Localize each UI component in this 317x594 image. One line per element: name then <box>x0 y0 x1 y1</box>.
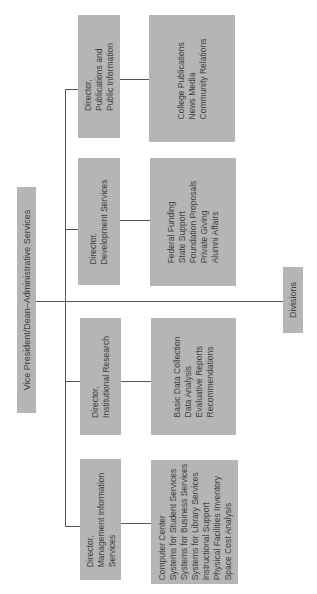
function-item: News Media <box>187 38 198 119</box>
branch-development <box>65 229 78 230</box>
link-research-functions <box>121 381 151 382</box>
director-box-development: Director, Development Services <box>78 158 120 285</box>
director-title-line: Management Information <box>95 472 106 567</box>
function-item: Space Cost Analysis <box>222 464 233 581</box>
director-box-research: Director, Institutional Research <box>80 318 121 435</box>
director-title-line: Director, <box>83 42 94 110</box>
function-item: Instructional Support <box>200 464 211 581</box>
function-item: Alumni Affairs <box>210 181 221 264</box>
director-title-line: Services <box>106 472 117 567</box>
vp-box: Vice President/Dean–Administrative Servi… <box>17 187 36 413</box>
link-mis-functions <box>121 523 151 524</box>
function-item: Computer Center <box>156 464 167 581</box>
main-horizontal-connector <box>36 301 283 302</box>
function-item: Systems for Student Services <box>167 464 178 581</box>
function-item: Federal Funding <box>166 181 177 264</box>
functions-box-research: Basic Data Collection Data Analysis Eval… <box>151 318 236 435</box>
function-item: Basic Data Collection <box>172 336 183 417</box>
function-item: Data Analysis <box>183 336 194 417</box>
branch-research <box>65 381 80 382</box>
function-item: Recommendations <box>205 336 216 417</box>
function-item: Private Giving <box>199 181 210 264</box>
function-item: Foundation Proposals <box>188 181 199 264</box>
branch-mis <box>65 526 80 527</box>
function-item: Evaluative Reports <box>194 336 205 417</box>
director-title-line: Public Information <box>105 42 116 110</box>
director-title-line: Institutional Research <box>101 336 112 418</box>
director-spine-connector <box>65 89 66 527</box>
link-publications-functions <box>120 79 149 80</box>
functions-box-mis: Computer Center Systems for Student Serv… <box>151 460 238 584</box>
director-title-line: Director, <box>88 179 99 264</box>
divisions-box: Divisions <box>283 267 303 333</box>
vp-title: Vice President/Dean–Administrative Servi… <box>22 210 32 390</box>
function-item: Systems for Business Services <box>178 464 189 581</box>
function-item: Community Relations <box>198 38 209 119</box>
director-box-mis: Director, Management Information Service… <box>80 459 121 580</box>
director-box-publications: Director, Publications and Public Inform… <box>78 15 120 138</box>
function-item: College Publications <box>176 38 187 119</box>
function-item: State Support <box>177 181 188 264</box>
divisions-label: Divisions <box>288 282 298 318</box>
director-title-line: Director, <box>90 336 101 418</box>
branch-publications <box>65 89 78 90</box>
function-item: Physical Facilities Inventory <box>211 464 222 581</box>
functions-box-development: Federal Funding State Support Foundation… <box>150 158 236 286</box>
director-title-line: Director, <box>84 472 95 567</box>
director-title-line: Development Services <box>99 179 110 264</box>
link-development-functions <box>120 220 150 221</box>
function-item: Systems for Library Services <box>189 464 200 581</box>
functions-box-publications: College Publications News Media Communit… <box>149 15 235 142</box>
director-title-line: Publications and <box>94 42 105 110</box>
